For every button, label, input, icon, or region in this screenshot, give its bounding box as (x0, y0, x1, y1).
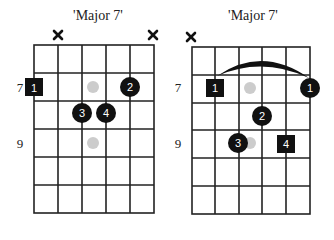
svg-text:1: 1 (307, 82, 313, 94)
svg-text:3: 3 (79, 107, 85, 119)
right-fret-grid (192, 47, 310, 214)
svg-text:1: 1 (212, 82, 218, 94)
svg-text:2: 2 (127, 81, 133, 93)
ghost-dot (87, 137, 99, 149)
left-chord-diagram: 1 2 3 4 (25, 31, 157, 213)
finger-3-marker: 3 (228, 133, 248, 153)
finger-4-marker: 4 (277, 135, 295, 153)
ghost-dot (244, 82, 256, 94)
muted-string-icon (149, 31, 157, 39)
svg-text:2: 2 (259, 110, 265, 122)
finger-2-marker: 2 (252, 106, 272, 126)
svg-text:3: 3 (235, 137, 241, 149)
finger-3-marker: 3 (72, 103, 92, 123)
finger-1-marker: 1 (206, 79, 224, 97)
right-chord-diagram: 1 1 2 3 4 (187, 33, 320, 214)
svg-text:1: 1 (31, 82, 37, 94)
svg-text:4: 4 (283, 138, 289, 150)
muted-string-icon (187, 33, 195, 41)
finger-1-marker: 1 (25, 78, 43, 96)
finger-4-marker: 4 (96, 103, 116, 123)
finger-2-marker: 2 (120, 77, 140, 97)
svg-text:4: 4 (103, 107, 109, 119)
left-fret-grid (34, 45, 154, 213)
ghost-dot (87, 81, 99, 93)
finger-1-barre-end-marker: 1 (300, 78, 320, 98)
muted-string-icon (54, 31, 62, 39)
